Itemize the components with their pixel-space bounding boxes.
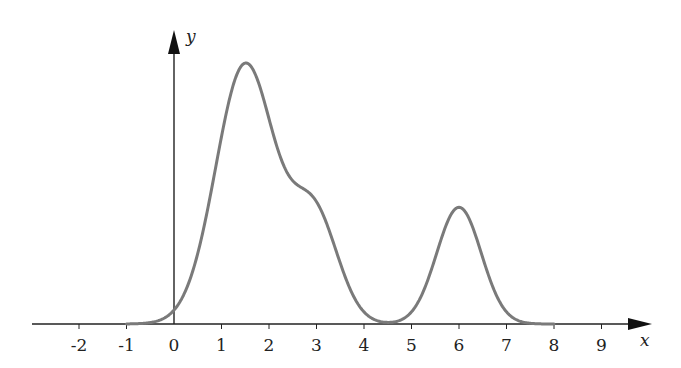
x-tick-label: 9 bbox=[596, 335, 607, 355]
curve-series bbox=[127, 63, 555, 324]
x-tick-label: 0 bbox=[169, 335, 180, 355]
x-tick-label: 1 bbox=[216, 335, 227, 355]
x-tick-label: -1 bbox=[118, 335, 135, 355]
x-tick-label: 5 bbox=[406, 335, 417, 355]
x-tick-label: 8 bbox=[549, 335, 560, 355]
y-axis-arrow-icon bbox=[168, 30, 180, 54]
chart: -2-10123456789 x y bbox=[0, 0, 681, 368]
x-axis-label: x bbox=[640, 330, 650, 350]
x-ticks: -2-10123456789 bbox=[71, 324, 607, 355]
y-axis-label: y bbox=[185, 26, 196, 46]
x-tick-label: 2 bbox=[264, 335, 275, 355]
x-tick-label: 7 bbox=[501, 335, 512, 355]
x-tick-label: 3 bbox=[311, 335, 322, 355]
x-tick-label: 4 bbox=[359, 335, 370, 355]
x-tick-label: 6 bbox=[454, 335, 465, 355]
x-axis: -2-10123456789 x bbox=[32, 318, 652, 355]
x-tick-label: -2 bbox=[71, 335, 88, 355]
y-axis: y bbox=[168, 26, 196, 324]
x-axis-arrow-icon bbox=[628, 318, 652, 330]
